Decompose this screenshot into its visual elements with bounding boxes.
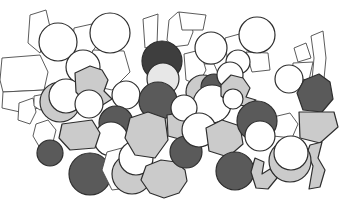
atom-white-15 (245, 121, 275, 151)
atom-white-5 (75, 90, 103, 118)
blob-light-9 (299, 112, 338, 143)
packing-diagram-canvas (0, 0, 353, 207)
atom-white-16 (239, 17, 275, 53)
atom-white-14 (223, 89, 243, 109)
atom-dark-2 (37, 140, 63, 166)
blob-light-2 (59, 120, 100, 150)
grain-cell-12 (294, 43, 311, 62)
grain-cell-2 (0, 55, 48, 92)
grain-cell-14 (311, 31, 326, 80)
packing-diagram-figure (0, 0, 353, 207)
grain-cell-8 (179, 12, 206, 30)
atom-white-2 (90, 13, 130, 53)
atom-white-17 (195, 32, 227, 64)
atom-white-19 (274, 136, 308, 170)
atom-dark-8 (216, 152, 254, 190)
atom-white-6 (112, 81, 140, 109)
